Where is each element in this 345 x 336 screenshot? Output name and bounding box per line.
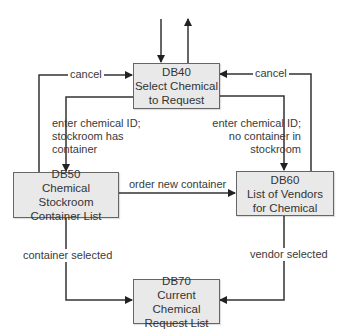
node-db60-code: DB60 <box>271 173 300 187</box>
label-to-db50-line1: enter chemical ID; <box>52 117 141 130</box>
node-db40-title-1: Select Chemical <box>135 79 218 93</box>
label-to-db60-line2: no container in <box>212 130 301 143</box>
node-db50-title-2: Container List <box>31 209 102 223</box>
label-container-selected: container selected <box>22 249 113 262</box>
node-db60-title-2: for Chemical <box>253 201 318 215</box>
node-db70-title-1: Current Chemical <box>134 288 219 316</box>
node-db50: DB50 Chemical Stockroom Container List <box>13 172 119 218</box>
label-to-db60-line3: stockroom <box>212 143 301 156</box>
label-vendor-selected: vendor selected <box>249 248 329 261</box>
node-db50-title-1: Chemical Stockroom <box>14 181 118 209</box>
node-db40: DB40 Select Chemical to Request <box>133 63 220 109</box>
node-db60: DB60 List of Vendors for Chemical <box>236 171 334 216</box>
node-db70: DB70 Current Chemical Request List <box>133 279 220 324</box>
node-db60-title-1: List of Vendors <box>247 187 323 201</box>
node-db50-code: DB50 <box>52 167 81 181</box>
label-to-db50-line2: stockroom has <box>52 130 141 143</box>
node-db40-title-2: to Request <box>149 93 205 107</box>
node-db40-code: DB40 <box>162 65 191 79</box>
label-to-db60-line1: enter chemical ID; <box>212 117 301 130</box>
label-to-db50-line3: container <box>52 143 141 156</box>
label-to-db50: enter chemical ID; stockroom has contain… <box>52 117 141 156</box>
label-cancel-right: cancel <box>253 67 289 80</box>
label-cancel-left: cancel <box>68 68 104 81</box>
node-db70-code: DB70 <box>162 274 191 288</box>
label-to-db60: enter chemical ID; no container in stock… <box>212 117 301 156</box>
label-order-new: order new container <box>129 178 226 191</box>
node-db70-title-2: Request List <box>145 316 209 330</box>
